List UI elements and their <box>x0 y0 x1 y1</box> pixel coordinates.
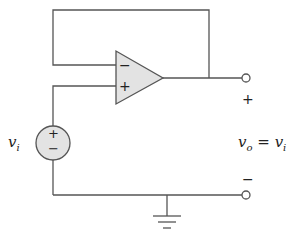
equation-equals: = <box>253 133 275 151</box>
circuit-diagram: − + + − vi + − vo = vi <box>0 0 297 240</box>
source-label: vi <box>8 135 20 153</box>
noninverting-input-wire <box>53 86 116 126</box>
output-equation: vo = vi <box>238 135 286 153</box>
output-plus-terminal <box>242 74 250 82</box>
output-minus-sign: − <box>242 172 254 186</box>
equation-rhs-sub: i <box>283 142 286 153</box>
output-plus-sign: + <box>242 92 254 106</box>
source-minus-sign: − <box>48 142 59 155</box>
ground-icon <box>153 195 181 228</box>
opamp-inverting-sign: − <box>119 58 131 72</box>
equation-rhs: v <box>275 133 283 151</box>
circuit-schematic <box>0 0 297 240</box>
source-plus-sign: + <box>48 127 59 140</box>
opamp-noninverting-sign: + <box>119 79 131 93</box>
source-label-sub: i <box>16 142 19 153</box>
output-minus-terminal <box>242 191 250 199</box>
